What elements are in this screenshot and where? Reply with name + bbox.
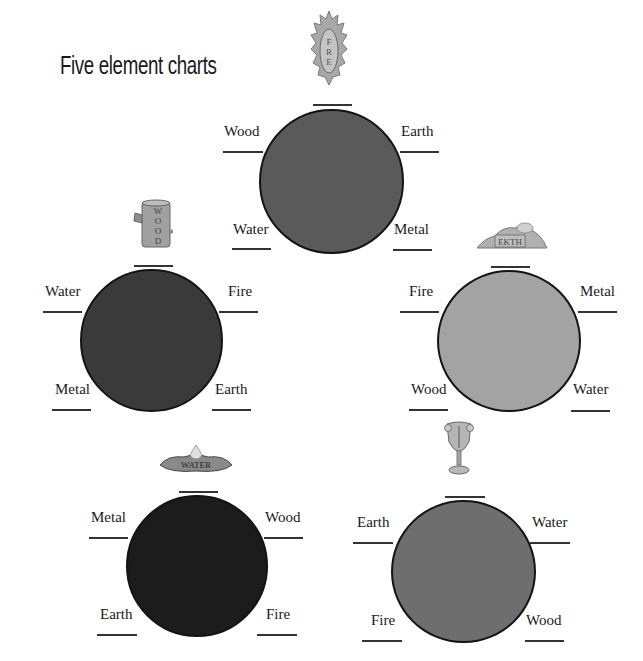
top-rule — [491, 266, 530, 268]
metal-goblet-icon — [443, 420, 475, 476]
earth-disc — [437, 270, 581, 412]
svg-text:EKTH: EKTH — [498, 237, 522, 247]
wood-log-icon: W O O D — [132, 199, 174, 249]
label-top-left: Water — [45, 283, 80, 299]
label-top-left: Earth — [357, 514, 389, 530]
label-bottom-left: Metal — [55, 381, 90, 397]
rule-top-right — [578, 311, 617, 313]
rule-bottom-left — [232, 248, 271, 250]
rule-bottom-right — [212, 409, 251, 411]
rule-top-left — [400, 311, 439, 313]
label-top-left: Wood — [224, 123, 259, 139]
rule-bottom-left — [97, 634, 137, 636]
svg-text:D: D — [155, 236, 162, 246]
label-bottom-left: Wood — [411, 381, 446, 397]
label-top-right: Water — [532, 514, 567, 530]
svg-text:WATER: WATER — [181, 460, 211, 470]
label-bottom-left: Fire — [371, 612, 395, 628]
label-bottom-right: Water — [573, 381, 608, 397]
label-bottom-right: Wood — [526, 612, 561, 628]
label-bottom-left: Earth — [100, 606, 132, 622]
rule-bottom-right — [393, 249, 432, 251]
water-puddle-icon: WATER — [158, 443, 234, 473]
svg-text:R: R — [326, 47, 332, 57]
label-top-right: Earth — [401, 123, 433, 139]
svg-text:O: O — [155, 226, 162, 236]
metal-disc — [391, 500, 536, 643]
label-bottom-right: Fire — [266, 606, 290, 622]
svg-text:O: O — [155, 216, 162, 226]
label-top-left: Fire — [409, 283, 433, 299]
fire-flame-icon: F R E — [309, 9, 349, 87]
rule-top-right — [219, 311, 258, 313]
svg-text:W: W — [154, 206, 163, 216]
wood-disc — [80, 269, 223, 412]
rule-top-left — [43, 311, 82, 313]
top-rule — [445, 496, 485, 498]
rule-bottom-right — [571, 410, 610, 412]
top-rule — [134, 265, 173, 267]
label-bottom-right: Metal — [394, 221, 429, 237]
label-top-right: Metal — [580, 283, 615, 299]
label-top-left: Metal — [91, 509, 126, 525]
svg-text:E: E — [326, 57, 332, 67]
svg-text:F: F — [326, 37, 331, 47]
rule-top-left — [89, 537, 128, 539]
rule-bottom-left — [409, 409, 448, 411]
label-top-right: Wood — [265, 509, 300, 525]
rule-top-right — [400, 151, 439, 153]
top-rule — [313, 104, 352, 106]
top-rule — [179, 491, 218, 493]
fire-disc — [259, 109, 404, 254]
earth-mound-icon: EKTH — [475, 220, 549, 252]
page-title: Five element charts — [60, 50, 217, 81]
rule-top-right — [264, 537, 303, 539]
rule-top-left — [223, 151, 263, 153]
rule-top-left — [353, 542, 393, 544]
label-bottom-left: Water — [233, 221, 268, 237]
water-disc — [126, 495, 268, 637]
label-top-right: Fire — [228, 283, 252, 299]
label-bottom-right: Earth — [215, 381, 247, 397]
rule-top-right — [530, 542, 570, 544]
rule-bottom-left — [362, 640, 402, 642]
rule-bottom-left — [52, 409, 91, 411]
rule-bottom-right — [525, 640, 564, 642]
rule-bottom-right — [257, 634, 297, 636]
